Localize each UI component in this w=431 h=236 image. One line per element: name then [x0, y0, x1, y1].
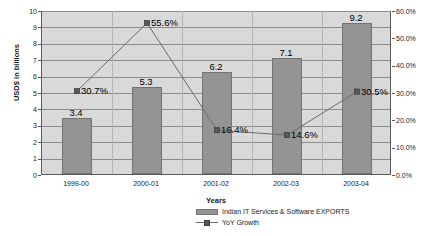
- y2-axis-tick-mark: [392, 175, 395, 176]
- x-axis-tick-label: 2001-02: [186, 180, 246, 187]
- x-axis-title: Years: [41, 196, 391, 205]
- y2-axis-tick-mark: [392, 93, 395, 94]
- bar-value-label: 7.1: [266, 47, 306, 58]
- legend-item-exports: Indian IT Services & Software EXPORTS: [196, 206, 431, 217]
- y-axis-tick-label: 9: [13, 24, 37, 31]
- y-axis-tick-label: 4: [13, 106, 37, 113]
- y-axis-tick-label: 3: [13, 122, 37, 129]
- bar-swatch-icon: [196, 209, 218, 215]
- y-axis-tick-label: 8: [13, 40, 37, 47]
- y-axis-tick-label: 10: [13, 8, 37, 15]
- y-axis-tick-label: 7: [13, 57, 37, 64]
- y2-axis-tick-label: 0.0%: [396, 172, 430, 179]
- y2-axis-tick-label: 40.0%: [396, 62, 430, 69]
- line-marker: [214, 128, 219, 133]
- line-marker: [354, 89, 359, 94]
- y-axis-tick-label: 6: [13, 73, 37, 80]
- line-value-label: 30.5%: [361, 86, 388, 97]
- x-axis-tick-label: 2002-03: [256, 180, 316, 187]
- y2-axis-tick-mark: [392, 148, 395, 149]
- y-axis-tick-label: 0: [13, 172, 37, 179]
- y2-axis-tick-label: 20.0%: [396, 117, 430, 124]
- y-axis-tick-mark: [38, 175, 41, 176]
- y2-axis-tick-mark: [392, 11, 395, 12]
- y2-axis-tick-label: 30.0%: [396, 90, 430, 97]
- line-value-label: 14.6%: [291, 129, 318, 140]
- y2-axis-tick-mark: [392, 66, 395, 67]
- line-marker: [74, 89, 79, 94]
- y-axis-tick-label: 2: [13, 139, 37, 146]
- line-marker: [284, 133, 289, 138]
- legend-label: Indian IT Services & Software EXPORTS: [222, 206, 349, 217]
- x-axis-tick-label: 1999-00: [46, 180, 106, 187]
- y2-axis-tick-mark: [392, 120, 395, 121]
- bar-value-label: 6.2: [196, 61, 236, 72]
- y2-axis-tick-label: 10.0%: [396, 144, 430, 151]
- y-axis-tick-label: 1: [13, 155, 37, 162]
- legend-label: YoY Growth: [222, 217, 259, 228]
- line-value-label: 55.6%: [151, 17, 178, 28]
- x-axis-tick-label: 2000-01: [116, 180, 176, 187]
- chart-container: USD$ in billions 109876543210 60.0%50.0%…: [0, 0, 431, 236]
- y2-axis-tick-label: 50.0%: [396, 35, 430, 42]
- bar-value-label: 9.2: [336, 12, 376, 23]
- line-marker: [144, 20, 149, 25]
- y-axis-tick-label: 5: [13, 90, 37, 97]
- y2-axis-tick-mark: [392, 38, 395, 39]
- y2-axis-tick-label: 60.0%: [396, 8, 430, 15]
- line-marker-icon: [196, 219, 218, 226]
- chart-legend: Indian IT Services & Software EXPORTS Yo…: [196, 206, 431, 228]
- x-axis-tick-label: 2003-04: [326, 180, 386, 187]
- line-value-label: 30.7%: [81, 85, 108, 96]
- bar-value-label: 5.3: [126, 76, 166, 87]
- line-value-label: 16.4%: [221, 124, 248, 135]
- legend-item-yoy-growth: YoY Growth: [196, 217, 431, 228]
- bar-value-label: 3.4: [56, 107, 96, 118]
- line-path: [77, 23, 357, 135]
